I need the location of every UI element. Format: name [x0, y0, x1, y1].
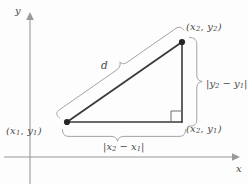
hypotenuse-segment: [67, 42, 182, 122]
horizontal-leg-label: |x2 − x1|: [103, 142, 144, 153]
axes-group: [4, 12, 240, 184]
y-axis-arrowhead: [26, 12, 34, 20]
vertex-dot-p2: [179, 39, 185, 45]
triangle-group: [67, 42, 182, 122]
y-axis-label: y: [15, 6, 21, 16]
point-label-p3: (x2, y1): [186, 124, 222, 135]
distance-label: d: [101, 60, 108, 71]
point-label-p2: (x2, y2): [186, 22, 222, 33]
x-axis-label: x: [236, 164, 242, 174]
distance-formula-figure: (x2, y2) (x1, y1) (x2, y1) |y2 − y1| |x2…: [0, 0, 249, 185]
x-axis-arrowhead: [232, 153, 240, 161]
hypotenuse-brace: [57, 27, 184, 118]
point-p3-y-sub: 1: [213, 127, 218, 135]
point-p1-y-sub: 1: [33, 129, 38, 137]
horizontal-leg-brace: [63, 130, 186, 142]
right-angle-marker: [171, 111, 182, 122]
point-p2-y-sub: 2: [213, 25, 218, 33]
vertical-leg-label: |y2 − y1|: [206, 79, 247, 90]
vertical-leg-brace: [190, 38, 203, 127]
point-label-p1: (x1, y1): [6, 126, 42, 137]
vertex-dot-p1: [64, 119, 70, 125]
